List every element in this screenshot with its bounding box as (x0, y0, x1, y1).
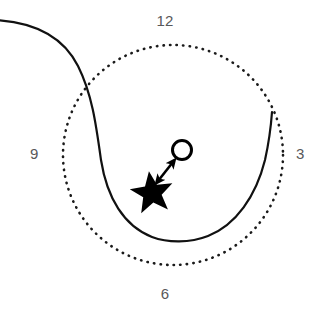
double-headed-arrow (158, 162, 173, 181)
clock-label-6: 6 (0, 285, 330, 302)
clock-orientation-diagram (0, 0, 330, 317)
clock-label-3: 3 (296, 145, 305, 162)
star-marker (128, 168, 176, 214)
solid-trajectory-curve (0, 20, 272, 241)
open-circle-marker (173, 141, 192, 160)
clock-label-9: 9 (30, 145, 39, 162)
clock-label-12: 12 (0, 12, 330, 29)
figure-root: 12 3 6 9 (0, 0, 330, 317)
